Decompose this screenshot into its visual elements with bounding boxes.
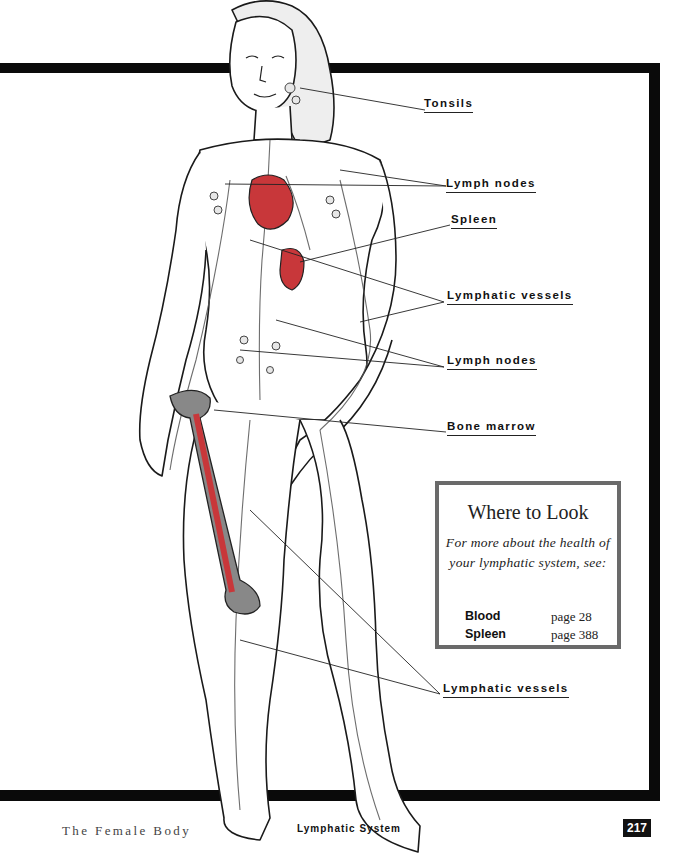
reference-page: page 388: [551, 627, 598, 643]
label-lymphatic-vessels-lower: Lymphatic vessels: [443, 682, 569, 698]
where-to-look-callout: Where to Look For more about the health …: [435, 481, 621, 649]
callout-title: Where to Look: [439, 501, 617, 524]
label-tonsils: Tonsils: [424, 97, 473, 113]
reference-page: page 28: [551, 609, 592, 625]
page-number: 217: [623, 819, 651, 837]
label-bone-marrow: Bone marrow: [447, 420, 536, 436]
callout-body: For more about the health of your lympha…: [445, 533, 611, 573]
reference-topic: Blood: [465, 609, 500, 623]
label-lymph-nodes-upper: Lymph nodes: [446, 177, 536, 193]
label-spleen: Spleen: [451, 213, 497, 229]
reference-topic: Spleen: [465, 627, 506, 641]
lymphatic-system-illustration: [0, 0, 689, 864]
footer-book-title: The Female Body: [62, 823, 191, 839]
footer-chapter-title: Lymphatic System: [297, 823, 401, 834]
reference-row: Spleen page 388: [465, 627, 615, 645]
label-lymphatic-vessels-upper: Lymphatic vessels: [447, 289, 573, 305]
label-lymph-nodes-lower: Lymph nodes: [447, 354, 537, 370]
reference-row: Blood page 28: [465, 609, 615, 627]
